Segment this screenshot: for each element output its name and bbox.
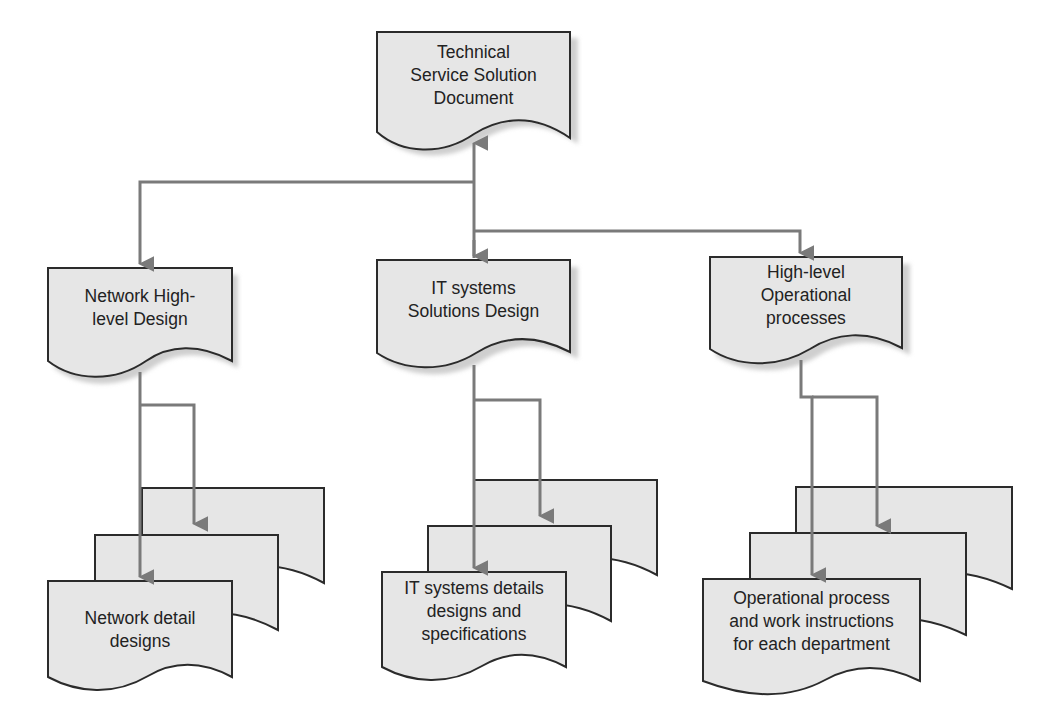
network-detail-designs-stack [48, 488, 324, 690]
label-line: Service Solution [377, 64, 570, 87]
label-line: designs and [382, 600, 566, 623]
label-line: specifications [382, 623, 566, 646]
top-document-label: Technical Service Solution Document [377, 40, 570, 110]
label-line: Technical [377, 41, 570, 64]
label-line: processes [710, 307, 902, 330]
label-line: Network High- [48, 285, 232, 308]
label-line: designs [48, 630, 232, 653]
label-line: IT systems details [382, 577, 566, 600]
network-detail-designs-label: Network detail designs [48, 605, 232, 655]
it-systems-details-designs-label: IT systems details designs and specifica… [382, 575, 566, 647]
label-line: level Design [48, 308, 232, 331]
label-line: and work instructions [703, 610, 920, 633]
label-line: for each department [703, 633, 920, 656]
label-line: Operational [710, 284, 902, 307]
network-high-level-design-label: Network High- level Design [48, 283, 232, 333]
connector-to-network-high-level [140, 182, 474, 264]
it-systems-solutions-design-label: IT systems Solutions Design [377, 275, 570, 325]
label-line: Document [377, 87, 570, 110]
label-line: Solutions Design [377, 300, 570, 323]
label-line: High-level [710, 261, 902, 284]
high-level-operational-processes-label: High-level Operational processes [710, 259, 902, 331]
operational-process-work-instructions-label: Operational process and work instruction… [703, 585, 920, 657]
label-line: Network detail [48, 607, 232, 630]
label-line: Operational process [703, 587, 920, 610]
connector-to-operational [474, 231, 800, 253]
label-line: IT systems [377, 277, 570, 300]
